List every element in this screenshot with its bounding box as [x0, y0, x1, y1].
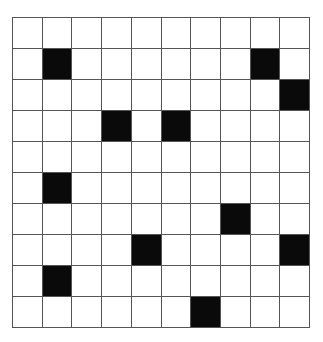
grid-cell — [43, 142, 73, 173]
grid-cell — [72, 204, 102, 235]
grid-cell — [43, 297, 73, 328]
grid-cell — [162, 173, 192, 204]
grid-cell — [162, 80, 192, 111]
grid-cell-filled — [251, 49, 281, 80]
grid-cell — [132, 204, 162, 235]
grid-cell — [72, 297, 102, 328]
grid-cell — [102, 142, 132, 173]
grid-cell — [162, 18, 192, 49]
grid-cell — [72, 80, 102, 111]
grid-cell — [162, 297, 192, 328]
grid-cell-filled — [43, 173, 73, 204]
grid-board — [12, 17, 310, 328]
grid-cell — [43, 235, 73, 266]
grid-cell — [280, 49, 310, 80]
grid-cell — [251, 173, 281, 204]
grid-cell — [280, 204, 310, 235]
grid-cell — [13, 297, 43, 328]
grid-cell — [221, 49, 251, 80]
grid-cell — [72, 111, 102, 142]
grid-cell — [221, 80, 251, 111]
grid-cell — [13, 142, 43, 173]
grid-cell — [13, 173, 43, 204]
grid-cell — [221, 235, 251, 266]
grid-cell — [251, 80, 281, 111]
grid-cell-filled — [102, 111, 132, 142]
grid-cell — [132, 142, 162, 173]
grid-cell-filled — [43, 49, 73, 80]
grid-cell — [162, 204, 192, 235]
grid-cell-filled — [162, 111, 192, 142]
grid-cell — [191, 142, 221, 173]
grid-cell — [191, 80, 221, 111]
grid-cell — [102, 173, 132, 204]
grid-cell — [221, 111, 251, 142]
grid-cell — [162, 266, 192, 297]
grid-cell — [221, 18, 251, 49]
grid-cell — [72, 18, 102, 49]
grid-cell — [132, 173, 162, 204]
grid-cell — [43, 204, 73, 235]
grid-cell — [221, 142, 251, 173]
grid-cell — [162, 49, 192, 80]
grid-cell — [132, 266, 162, 297]
grid-cell — [102, 80, 132, 111]
grid-cell — [13, 235, 43, 266]
grid-cell — [280, 18, 310, 49]
grid-cell — [251, 111, 281, 142]
grid-cell-filled — [280, 235, 310, 266]
grid-cell — [251, 235, 281, 266]
grid-cell — [280, 142, 310, 173]
grid-cell — [13, 49, 43, 80]
grid-cell — [132, 18, 162, 49]
grid-cell — [72, 235, 102, 266]
grid-cell — [191, 18, 221, 49]
grid-cell-filled — [132, 235, 162, 266]
grid-cell — [162, 142, 192, 173]
grid-cell — [191, 49, 221, 80]
grid-cell-filled — [43, 266, 73, 297]
grid-cell — [13, 18, 43, 49]
grid-cell — [72, 142, 102, 173]
grid-cell-filled — [221, 204, 251, 235]
grid-cell — [13, 80, 43, 111]
grid-cell — [251, 142, 281, 173]
grid-cell — [251, 266, 281, 297]
grid-cell — [191, 173, 221, 204]
grid-cell — [191, 235, 221, 266]
grid-cell — [162, 235, 192, 266]
grid-cell — [251, 204, 281, 235]
grid-cell — [280, 297, 310, 328]
grid-cell — [251, 18, 281, 49]
grid-cell — [72, 266, 102, 297]
grid-cell — [191, 111, 221, 142]
grid-cell — [221, 266, 251, 297]
grid-cell — [132, 49, 162, 80]
grid-cell — [43, 111, 73, 142]
grid-cell — [102, 18, 132, 49]
grid-cell — [102, 235, 132, 266]
grid-cell — [102, 266, 132, 297]
grid-cell — [191, 266, 221, 297]
grid-cell — [102, 204, 132, 235]
grid-cell — [132, 111, 162, 142]
grid-cell — [13, 266, 43, 297]
grid-cell — [191, 204, 221, 235]
grid-cell — [13, 204, 43, 235]
grid-cell — [43, 18, 73, 49]
grid-cell-filled — [280, 80, 310, 111]
grid-cell-filled — [191, 297, 221, 328]
grid-cell — [280, 266, 310, 297]
grid-cell — [221, 173, 251, 204]
grid-cell — [72, 49, 102, 80]
grid-cell — [102, 297, 132, 328]
grid-cell — [72, 173, 102, 204]
grid-cell — [132, 297, 162, 328]
grid-cell — [280, 173, 310, 204]
grid-cell — [251, 297, 281, 328]
grid-cell — [13, 111, 43, 142]
grid-cell — [102, 49, 132, 80]
grid-cell — [280, 111, 310, 142]
grid-cell — [221, 297, 251, 328]
grid-cell — [132, 80, 162, 111]
